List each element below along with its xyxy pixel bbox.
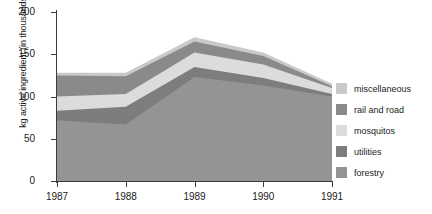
x-tick-mark: [57, 181, 58, 187]
legend-swatch-icon: [336, 83, 347, 94]
x-tick-mark: [332, 181, 333, 187]
y-axis-title: kg active ingredient (in thousands): [18, 0, 28, 146]
x-tick-label: 1987: [37, 191, 77, 202]
legend-swatch-icon: [336, 146, 347, 157]
legend-item-label: mosquitos: [354, 126, 395, 136]
stacked-area-series-group: [57, 12, 332, 181]
area-chart: kg active ingredient (in thousands) 0501…: [0, 0, 432, 214]
legend: miscellaneousrail and roadmosquitosutili…: [336, 78, 432, 183]
plot-area: [57, 12, 332, 181]
legend-item-label: rail and road: [354, 105, 404, 115]
legend-item-label: utilities: [354, 147, 382, 157]
y-tick-label: 0: [5, 176, 35, 186]
legend-swatch-icon: [336, 167, 347, 178]
legend-item-label: miscellaneous: [354, 84, 411, 94]
legend-swatch-icon: [336, 104, 347, 115]
x-tick-label: 1988: [106, 191, 146, 202]
x-tick-mark: [263, 181, 264, 187]
legend-item-forestry[interactable]: forestry: [336, 162, 432, 183]
legend-item-rail-and-road[interactable]: rail and road: [336, 99, 432, 120]
legend-swatch-icon: [336, 125, 347, 136]
legend-item-label: forestry: [354, 168, 384, 178]
legend-item-mosquitos[interactable]: mosquitos: [336, 120, 432, 141]
y-tick-label: 200: [5, 7, 35, 17]
y-tick-label: 150: [5, 49, 35, 59]
legend-item-miscellaneous[interactable]: miscellaneous: [336, 78, 432, 99]
legend-item-utilities[interactable]: utilities: [336, 141, 432, 162]
x-tick-label: 1990: [243, 191, 283, 202]
x-tick-label: 1991: [312, 191, 352, 202]
y-tick-label: 50: [5, 134, 35, 144]
x-tick-mark: [126, 181, 127, 187]
x-tick-label: 1989: [175, 191, 215, 202]
y-tick-label: 100: [5, 92, 35, 102]
x-tick-mark: [195, 181, 196, 187]
